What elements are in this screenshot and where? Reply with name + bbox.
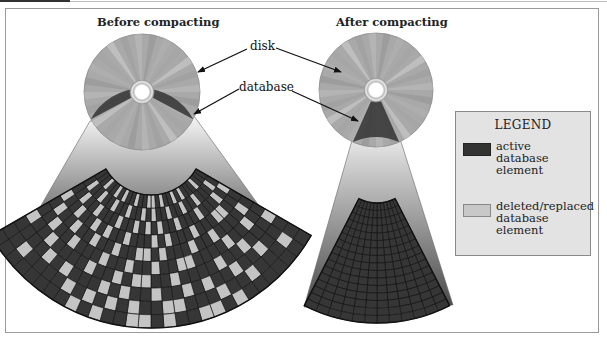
active-element (371, 233, 377, 241)
arrow-database-left (194, 89, 239, 114)
active-element (140, 288, 151, 302)
before-compacting-title: Before compacting (97, 15, 219, 29)
active-element (151, 221, 157, 234)
active-element (382, 232, 389, 240)
before-disk (84, 34, 200, 150)
active-element (369, 263, 377, 271)
active-element (386, 277, 396, 286)
active-element (382, 225, 388, 233)
active-element (384, 247, 392, 255)
active-element (151, 314, 164, 328)
active-element (139, 301, 151, 315)
active-element (385, 262, 394, 270)
active-element (377, 240, 384, 248)
legend-line: element (496, 164, 549, 176)
active-element (358, 277, 368, 286)
active-element (159, 260, 169, 274)
active-element (377, 308, 389, 316)
after-disk (319, 33, 433, 147)
deleted-element (151, 235, 158, 249)
active-element (368, 270, 377, 278)
active-element (370, 248, 377, 256)
legend: LEGEND active database element deleted/r… (455, 111, 591, 256)
legend-swatch-deleted (463, 204, 491, 217)
deleted-element (125, 313, 139, 328)
legend-label-deleted: deleted/replaced database element (496, 200, 594, 236)
active-element (377, 285, 387, 293)
active-element (377, 315, 390, 323)
active-element (360, 262, 369, 270)
deleted-element (173, 298, 187, 313)
active-element (366, 293, 377, 301)
active-element (377, 278, 387, 286)
active-element (384, 254, 392, 262)
active-element (157, 234, 165, 248)
active-element (377, 255, 385, 263)
active-element (377, 263, 385, 271)
active-element (377, 225, 382, 233)
callout-database: database (239, 80, 294, 94)
deleted-element (151, 208, 156, 221)
active-element (142, 261, 151, 275)
active-element (151, 248, 159, 262)
active-element (377, 203, 381, 211)
active-element (385, 269, 395, 277)
active-element (151, 274, 161, 288)
deleted-element (143, 248, 151, 262)
deleted-element (162, 300, 175, 314)
active-element (160, 274, 171, 288)
legend-label-active: active database element (496, 140, 549, 176)
active-element (359, 269, 369, 277)
active-element (369, 255, 377, 263)
deleted-element (138, 314, 151, 328)
deleted-element (151, 195, 156, 208)
active-element (377, 233, 383, 241)
deleted-element (151, 288, 162, 302)
active-element (377, 210, 381, 218)
active-element (367, 278, 377, 286)
deleted-element (158, 247, 167, 261)
compaction-diagram: Before compacting After compacting disk … (0, 0, 607, 339)
active-element (366, 300, 377, 308)
legend-line: element (496, 224, 594, 236)
active-element (370, 240, 377, 248)
legend-swatch-active (463, 143, 491, 156)
deleted-element (127, 300, 140, 314)
active-element (151, 301, 163, 315)
legend-title: LEGEND (456, 118, 590, 132)
deleted-element (163, 313, 177, 328)
arrow-disk-left (198, 49, 247, 72)
active-element (377, 270, 386, 278)
active-element (377, 218, 382, 226)
callout-disk: disk (250, 39, 275, 53)
deleted-element (141, 274, 151, 288)
active-element (161, 287, 173, 301)
active-element (377, 300, 388, 308)
active-element (377, 248, 384, 256)
active-element (365, 308, 377, 316)
active-element (364, 315, 377, 323)
after-compacting-title: After compacting (336, 15, 448, 29)
active-element (367, 285, 377, 293)
deleted-element (151, 261, 160, 275)
active-element (377, 293, 388, 301)
active-element (383, 240, 390, 248)
